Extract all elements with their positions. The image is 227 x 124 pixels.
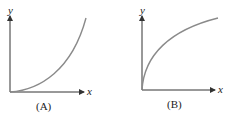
graph-b-caption: (B) — [167, 98, 182, 111]
graph-a-y-label: y — [7, 4, 13, 16]
graph-a-x-label: x — [86, 85, 92, 97]
graph-a-curve — [10, 18, 86, 92]
graph-b: y x (B) — [139, 4, 223, 111]
two-graphs-diagram: y x (A) y x (B) — [0, 0, 227, 124]
graph-b-y-label: y — [139, 4, 145, 16]
graph-b-curve — [142, 18, 218, 90]
graph-a-caption: (A) — [36, 100, 52, 113]
graph-b-x-label: x — [217, 83, 223, 95]
graph-a: y x (A) — [7, 4, 92, 113]
